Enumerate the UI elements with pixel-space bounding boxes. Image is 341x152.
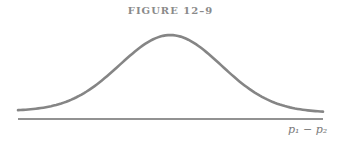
bell-curve [18, 35, 323, 112]
x-axis-label: p₁ − p₂ [288, 123, 327, 136]
